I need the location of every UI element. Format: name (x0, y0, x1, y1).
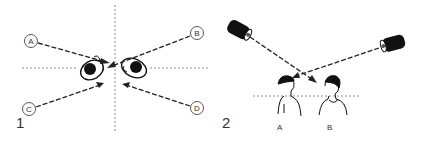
subject-label-a: A (277, 123, 283, 132)
panel-number-2: 2 (222, 114, 230, 131)
svg-text:B: B (194, 29, 199, 38)
arrowhead-camera-left (308, 75, 317, 83)
svg-text:D: D (194, 104, 200, 113)
panel-2: A B 2 (222, 18, 406, 132)
arrowhead-camera-right (292, 72, 300, 78)
arrow-a (38, 43, 106, 62)
arrow-b (112, 36, 190, 66)
svg-text:A: A (28, 37, 34, 46)
camera-axis-diagram: A B C D 1 (0, 0, 425, 141)
subject-label-b: B (327, 123, 332, 132)
arrowhead-a (100, 58, 110, 64)
position-a: A (25, 35, 38, 48)
position-d: D (191, 102, 204, 115)
arrow-camera-right (296, 48, 379, 76)
position-c: C (23, 103, 36, 116)
arrowhead-d (122, 82, 130, 88)
camera-left (225, 18, 253, 42)
svg-text:C: C (26, 105, 32, 114)
head-top-view-right (118, 54, 149, 81)
camera-right (379, 34, 406, 54)
arrow-d (126, 85, 190, 106)
person-b (319, 76, 347, 115)
panel-number-1: 1 (16, 114, 24, 131)
position-b: B (191, 27, 204, 40)
arrowhead-c (96, 82, 104, 88)
arrow-c (36, 85, 100, 107)
panel-1: A B C D 1 (16, 5, 208, 132)
